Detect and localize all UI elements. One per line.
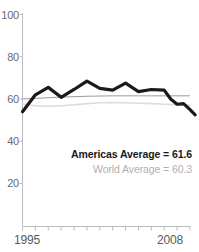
axis-lines xyxy=(23,13,191,227)
legend-americas-average: Americas Average = 61.6 xyxy=(71,148,192,160)
chart-container: 100 80 60 40 20 1995 2008 Americas Avera… xyxy=(0,0,199,252)
series-line-world-average xyxy=(23,96,191,99)
data-series-group xyxy=(23,81,196,115)
x-axis-ticks xyxy=(23,227,191,231)
legend-world-average: World Average = 60.3 xyxy=(93,163,192,175)
series-line-world-light xyxy=(23,103,191,107)
plot-area xyxy=(0,0,199,252)
